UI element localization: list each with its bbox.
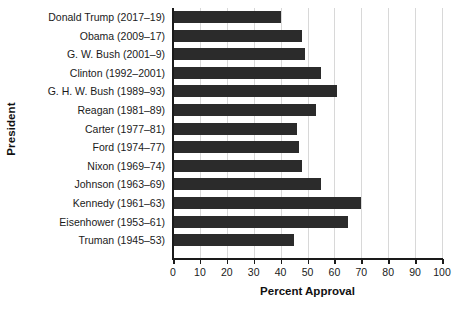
- x-axis-title: Percent Approval: [173, 285, 442, 297]
- tick-label: 10: [194, 266, 206, 278]
- tick-mark: [227, 259, 229, 264]
- tick-label: 100: [433, 266, 451, 278]
- bar: [173, 85, 337, 97]
- bar: [173, 123, 297, 135]
- tick-mark: [308, 259, 310, 264]
- category-axis-labels: Donald Trump (2017–19)Obama (2009–17)G. …: [22, 8, 169, 258]
- bar: [173, 104, 316, 116]
- bar: [173, 11, 281, 23]
- tick-label: 70: [355, 266, 367, 278]
- category-label: G. H. W. Bush (1989–93): [48, 82, 165, 100]
- tick-mark: [173, 259, 175, 264]
- bar: [173, 234, 294, 246]
- bar-chart: President Donald Trump (2017–19)Obama (2…: [0, 0, 467, 309]
- x-axis-tick-marks: [173, 259, 442, 265]
- y-axis-title: President: [0, 0, 22, 258]
- tick-label: 0: [170, 266, 176, 278]
- bar: [173, 178, 321, 190]
- gridline: [388, 8, 389, 258]
- category-label: Eisenhower (1953–61): [59, 213, 165, 231]
- tick-label: 20: [221, 266, 233, 278]
- x-axis-tick-labels: 0102030405060708090100: [173, 266, 442, 282]
- bar: [173, 48, 305, 60]
- tick-label: 60: [329, 266, 341, 278]
- gridline: [442, 8, 443, 258]
- bar: [173, 160, 302, 172]
- gridline: [361, 8, 362, 258]
- category-label: Carter (1977–81): [85, 120, 165, 138]
- tick-mark: [442, 259, 444, 264]
- tick-mark: [200, 259, 202, 264]
- plot-area: [173, 8, 442, 258]
- category-label: Truman (1945–53): [78, 231, 165, 249]
- tick-label: 80: [382, 266, 394, 278]
- category-label: Ford (1974–77): [93, 138, 165, 156]
- y-axis-title-label: President: [5, 102, 17, 155]
- category-label: Clinton (1992–2001): [70, 64, 165, 82]
- bar: [173, 141, 299, 153]
- tick-mark: [415, 259, 417, 264]
- tick-label: 40: [275, 266, 287, 278]
- category-label: Kennedy (1961–63): [73, 194, 165, 212]
- bar: [173, 197, 361, 209]
- tick-mark: [281, 259, 283, 264]
- gridline: [415, 8, 416, 258]
- tick-label: 30: [248, 266, 260, 278]
- y-axis-line: [172, 8, 174, 258]
- tick-mark: [334, 259, 336, 264]
- tick-label: 90: [409, 266, 421, 278]
- tick-label: 50: [302, 266, 314, 278]
- category-label: Johnson (1963–69): [75, 175, 166, 193]
- category-label: Donald Trump (2017–19): [48, 8, 165, 26]
- tick-mark: [388, 259, 390, 264]
- category-label: Reagan (1981–89): [77, 101, 165, 119]
- tick-mark: [254, 259, 256, 264]
- category-label: G. W. Bush (2001–9): [67, 45, 165, 63]
- category-label: Obama (2009–17): [80, 27, 165, 45]
- bar: [173, 67, 321, 79]
- tick-mark: [361, 259, 363, 264]
- category-label: Nixon (1969–74): [87, 157, 165, 175]
- bar: [173, 30, 302, 42]
- bar: [173, 216, 348, 228]
